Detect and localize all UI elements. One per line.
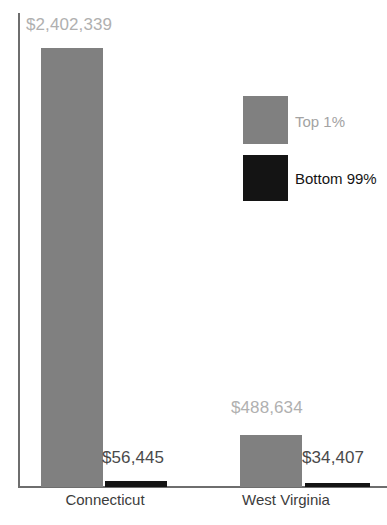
x-axis-label-connecticut: Connecticut	[20, 492, 190, 507]
value-label-connecticut-bottom-99-percent: $56,445	[102, 449, 164, 466]
y-axis-line	[18, 13, 20, 488]
legend-item-bottom-99-percent[interactable]: Bottom 99%	[243, 155, 387, 201]
legend-item-top-1-percent[interactable]: Top 1%	[243, 96, 387, 144]
bar-west-virginia-top-1-percent[interactable]	[240, 435, 302, 487]
value-label-west-virginia-top-1-percent: $488,634	[231, 399, 303, 416]
bar-connecticut-top-1-percent[interactable]	[41, 48, 103, 487]
bar-west-virginia-bottom-99-percent[interactable]	[305, 483, 370, 487]
x-axis-label-west-virginia: West Virginia	[212, 492, 360, 507]
value-label-connecticut-top-1-percent: $2,402,339	[26, 16, 112, 33]
legend-swatch-top-1-percent	[243, 96, 288, 144]
legend: Top 1% Bottom 99%	[243, 96, 387, 206]
value-label-west-virginia-bottom-99-percent: $34,407	[302, 449, 364, 466]
legend-label-top-1-percent: Top 1%	[295, 114, 345, 129]
bar-chart: $2,402,339 $56,445 $488,634 $34,407 Conn…	[0, 0, 387, 525]
legend-swatch-bottom-99-percent	[243, 155, 288, 201]
bar-connecticut-bottom-99-percent[interactable]	[105, 481, 167, 487]
legend-label-bottom-99-percent: Bottom 99%	[295, 171, 377, 186]
